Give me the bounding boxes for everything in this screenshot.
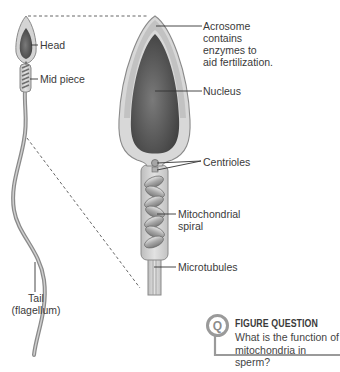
label-mitochondrial-spiral: Mitochondrial spiral: [178, 208, 240, 232]
figure-question-line1: What is the function of: [235, 331, 340, 344]
projection-line-bottom: [27, 138, 140, 288]
label-centrioles: Centrioles: [203, 156, 250, 168]
figure-question-title: FIGURE QUESTION: [235, 318, 318, 329]
label-acrosome-line4: aid fertilization.: [203, 56, 273, 68]
label-head: Head: [40, 39, 65, 51]
label-acrosome-line1: Acrosome: [203, 20, 273, 32]
question-icon: Q: [206, 314, 229, 337]
label-acrosome-line2: contains: [203, 32, 273, 44]
figure-question-text: What is the function of mitochondria in …: [235, 331, 340, 369]
label-acrosome: Acrosome contains enzymes to aid fertili…: [203, 20, 273, 68]
enlarged-sperm: [119, 16, 190, 295]
label-nucleus: Nucleus: [203, 85, 241, 97]
diagram-graphics: [0, 0, 340, 372]
figure-question-line2: mitochondria in sperm?: [235, 344, 340, 369]
label-tail: Tail (flagellum): [8, 292, 64, 316]
label-mito-line2: spiral: [178, 220, 240, 232]
label-mito-line1: Mitochondrial: [178, 208, 240, 220]
label-microtubules: Microtubules: [178, 261, 238, 273]
label-tail-line2: (flagellum): [8, 304, 64, 316]
sperm-diagram: Head Mid piece Tail (flagellum) Acrosome…: [0, 0, 340, 372]
label-acrosome-line3: enzymes to: [203, 44, 273, 56]
label-tail-line1: Tail: [8, 292, 64, 304]
label-mid-piece: Mid piece: [40, 73, 85, 85]
